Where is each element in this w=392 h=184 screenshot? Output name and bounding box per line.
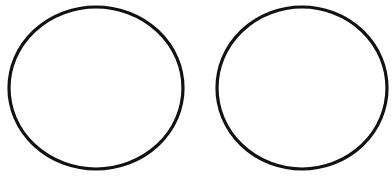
right-circle <box>217 7 387 169</box>
diagram-canvas <box>0 0 392 184</box>
left-circle <box>9 7 183 169</box>
